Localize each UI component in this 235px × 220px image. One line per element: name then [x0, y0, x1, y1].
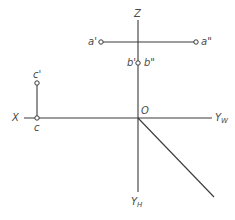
yh-axis-label-sub: H: [137, 201, 142, 209]
point-c-top-label: c: [34, 123, 40, 133]
point-b-front-side: [136, 61, 140, 65]
point-a-side-label: a": [201, 37, 212, 47]
yh-axis-label: YH: [131, 197, 142, 209]
point-c-top: [35, 116, 39, 120]
x-axis-label: X: [12, 113, 19, 123]
yw-axis-label-sub: W: [221, 117, 228, 125]
yw-axis-label: YW: [215, 113, 228, 125]
point-a-front: [99, 40, 103, 44]
origin-label: O: [141, 106, 149, 116]
point-c-front-label: c': [33, 70, 41, 80]
projection-diagram: [0, 0, 235, 220]
point-b-front-label: b': [127, 58, 136, 68]
point-a-front-label: a': [88, 37, 97, 47]
45-degree-transfer-line: [138, 118, 214, 197]
point-c-front: [35, 81, 39, 85]
z-axis-label: Z: [134, 9, 141, 19]
point-a-side: [194, 40, 198, 44]
point-b-side-label: b": [144, 58, 155, 68]
